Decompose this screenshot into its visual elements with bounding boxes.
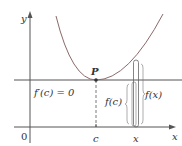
fc-bar: [132, 82, 136, 126]
point-p: [94, 78, 98, 82]
point-p-label: P: [90, 66, 99, 77]
x-axis-label: x: [172, 131, 178, 142]
function-curve: [56, 14, 163, 80]
c-tick-label: c: [93, 133, 99, 144]
fc-label: f(c): [104, 96, 122, 107]
y-axis-arrow-icon: [28, 11, 33, 18]
derivative-label: f′(c) = 0: [33, 87, 75, 98]
fx-label: f(x): [144, 89, 162, 100]
y-axis-label: y: [20, 13, 27, 24]
x-tick-label: x: [133, 133, 139, 144]
x-axis-arrow-icon: [169, 125, 176, 130]
y-axis: [28, 11, 33, 143]
fc-brace-icon: [125, 84, 129, 124]
origin-label: 0: [21, 131, 27, 142]
x-axis: [14, 125, 176, 130]
diagram-canvas: y x 0 c x P f′(c) = 0 f(c) f(x): [0, 0, 182, 146]
